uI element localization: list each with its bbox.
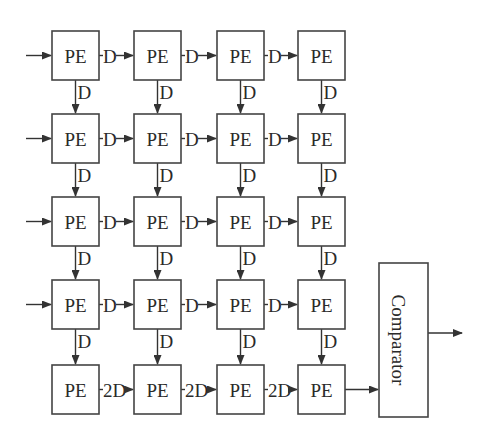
delay-label: D — [78, 331, 92, 352]
pe-label: PE — [229, 380, 251, 401]
pe-label: PE — [229, 212, 251, 233]
delay-label: D — [103, 212, 117, 233]
delay-label: D — [243, 331, 257, 352]
delay-label: 2D — [268, 380, 291, 401]
delay-label: D — [103, 129, 117, 150]
delay-label: 2D — [185, 380, 208, 401]
pe-label: PE — [310, 295, 332, 316]
pe-label: PE — [310, 212, 332, 233]
systolic-array-diagram: DDDDDDDDDDDDDDDDDDDDDDDDDDDD2D2D2D PEPEP… — [0, 0, 483, 437]
pe-label: PE — [310, 129, 332, 150]
delay-label: D — [185, 295, 199, 316]
delay-label: D — [324, 82, 338, 103]
delay-label: D — [243, 248, 257, 269]
delay-label: D — [243, 165, 257, 186]
delay-label: D — [78, 82, 92, 103]
pe-label: PE — [229, 295, 251, 316]
delay-label: D — [268, 295, 282, 316]
delay-label: D — [160, 331, 174, 352]
pe-label: PE — [146, 295, 168, 316]
pe-label: PE — [64, 295, 86, 316]
delay-label: D — [324, 331, 338, 352]
pe-label: PE — [64, 380, 86, 401]
delay-label: D — [268, 46, 282, 67]
delay-label: D — [103, 46, 117, 67]
comparator-label: Comparator — [388, 295, 409, 386]
pe-label: PE — [146, 46, 168, 67]
pe-label: PE — [310, 46, 332, 67]
delay-label: D — [185, 46, 199, 67]
pe-label: PE — [146, 212, 168, 233]
pe-label: PE — [146, 380, 168, 401]
delay-label: D — [160, 248, 174, 269]
pe-label: PE — [146, 129, 168, 150]
delay-label: D — [185, 129, 199, 150]
delay-label: D — [78, 165, 92, 186]
delay-label: D — [243, 82, 257, 103]
delay-label: D — [160, 165, 174, 186]
delay-label: D — [324, 165, 338, 186]
comparator-block: Comparator — [379, 263, 428, 417]
pe-label: PE — [64, 212, 86, 233]
delay-label: D — [268, 212, 282, 233]
pe-label: PE — [64, 129, 86, 150]
pe-label: PE — [64, 46, 86, 67]
pe-label: PE — [229, 46, 251, 67]
delay-label: D — [324, 248, 338, 269]
delay-label: D — [185, 212, 199, 233]
pe-label: PE — [310, 380, 332, 401]
delay-label: D — [160, 82, 174, 103]
delay-label: D — [268, 129, 282, 150]
delay-label: D — [78, 248, 92, 269]
pe-label: PE — [229, 129, 251, 150]
delay-label: D — [103, 295, 117, 316]
delay-label: 2D — [103, 380, 126, 401]
